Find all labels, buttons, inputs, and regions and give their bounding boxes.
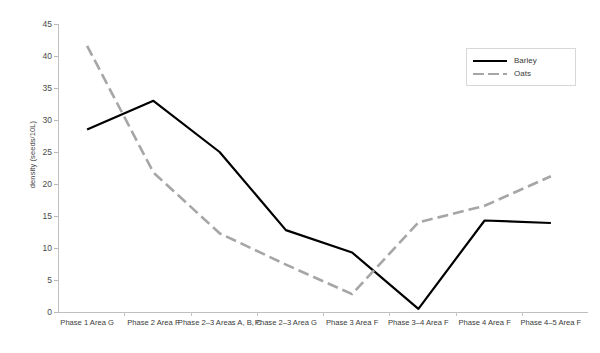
series-line-barley (87, 101, 551, 309)
legend-item-barley: Barley (473, 54, 569, 67)
legend-item-oats: Oats (473, 67, 569, 80)
legend-label-oats: Oats (514, 69, 531, 78)
legend-label-barley: Barley (514, 56, 537, 65)
legend-swatch-barley-icon (473, 57, 507, 65)
line-chart: density (seeds/10L) 051015202530354045 P… (0, 0, 600, 353)
chart-legend: Barley Oats (466, 48, 576, 86)
legend-swatch-oats-icon (473, 70, 507, 78)
